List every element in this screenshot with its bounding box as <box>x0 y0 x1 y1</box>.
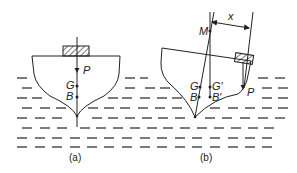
point-b <box>198 96 201 99</box>
label-b: B <box>190 91 197 103</box>
label-x: x <box>227 10 234 22</box>
label-p: P <box>247 86 255 98</box>
caption-a: (a) <box>69 152 81 163</box>
caption-b: (b) <box>200 152 212 163</box>
panel-a: P G B (a) <box>32 37 120 163</box>
label-b-prime: B′ <box>212 91 222 103</box>
load-block <box>63 46 89 56</box>
point-m <box>209 30 212 33</box>
point-g <box>76 85 79 88</box>
metacentric-height-diagram: P G B (a) M x G G′ B B′ P (b) <box>0 0 297 173</box>
distance-arrow <box>212 22 249 28</box>
keel-point <box>194 116 197 119</box>
keel-point <box>76 115 79 118</box>
load-line <box>244 12 253 88</box>
label-b: B <box>66 90 73 102</box>
panel-b: M x G G′ B B′ P (b) <box>161 10 255 163</box>
point-g <box>199 86 202 89</box>
label-p: P <box>83 64 91 76</box>
point-b <box>76 96 79 99</box>
label-m: M <box>199 25 209 37</box>
